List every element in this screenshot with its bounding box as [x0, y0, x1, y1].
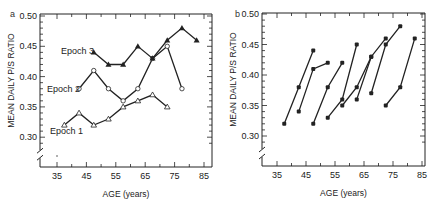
- open-triangle-marker-icon: [76, 110, 82, 115]
- series-label: Epoch 1: [50, 126, 83, 136]
- y-tick-label: 0.40: [241, 70, 259, 80]
- y-tick-label: 0.40: [19, 72, 37, 82]
- filled-circle-marker-icon: [326, 85, 330, 89]
- x-axis-title: AGE (years): [103, 189, 150, 199]
- open-circle-marker-icon: [106, 87, 110, 91]
- y-tick-label: 0.45: [241, 40, 259, 50]
- open-circle-marker-icon: [121, 99, 125, 103]
- x-tick-label: 85: [199, 171, 209, 181]
- series-cohort-1: [282, 49, 315, 126]
- y-tick-label: 0.50: [19, 11, 37, 21]
- chart-canvas: a0.300.350.400.450.50354555657585AGE (ye…: [0, 0, 436, 204]
- x-tick-label: 35: [272, 170, 282, 180]
- series-cohort-8: [384, 36, 417, 107]
- y-tick-label: 0.30: [241, 131, 259, 141]
- x-tick-label: 65: [140, 171, 150, 181]
- x-tick-label: 55: [111, 171, 121, 181]
- filled-circle-marker-icon: [384, 104, 388, 108]
- filled-circle-marker-icon: [297, 85, 301, 89]
- panel-b: b0.300.350.400.450.50354555657585AGE (ye…: [228, 9, 427, 198]
- x-tick-label: 45: [301, 170, 311, 180]
- x-tick-label: 45: [81, 171, 91, 181]
- filled-triangle-marker-icon: [135, 43, 141, 48]
- panel-letter: a: [10, 9, 15, 19]
- x-tick-label: 75: [170, 171, 180, 181]
- panel-a: a0.300.350.400.450.50354555657585AGE (ye…: [6, 9, 212, 199]
- y-axis-title: MEAN DAILY P/S RATIO: [228, 32, 238, 127]
- series-cohort-7: [369, 24, 402, 95]
- figure: a0.300.350.400.450.50354555657585AGE (ye…: [0, 0, 436, 204]
- open-circle-marker-icon: [165, 44, 169, 48]
- open-triangle-marker-icon: [150, 92, 156, 97]
- y-axis-title: MEAN DAILY P/S RATIO: [6, 33, 16, 128]
- filled-circle-marker-icon: [398, 85, 402, 89]
- y-tick-label: 0.30: [19, 132, 37, 142]
- open-circle-marker-icon: [136, 87, 140, 91]
- x-tick-label: 85: [417, 170, 427, 180]
- filled-circle-marker-icon: [340, 104, 344, 108]
- filled-triangle-marker-icon: [179, 25, 185, 30]
- x-tick-label: 65: [359, 170, 369, 180]
- x-tick-label: 35: [52, 171, 62, 181]
- filled-circle-marker-icon: [369, 55, 373, 59]
- filled-circle-marker-icon: [369, 91, 373, 95]
- filled-circle-marker-icon: [413, 36, 417, 40]
- x-tick-label: 75: [388, 170, 398, 180]
- series-epoch-3: [91, 25, 200, 67]
- filled-circle-marker-icon: [384, 36, 388, 40]
- x-tick-label: 55: [330, 170, 340, 180]
- filled-circle-marker-icon: [282, 122, 286, 126]
- series-label: Epoch 3: [61, 46, 94, 56]
- filled-circle-marker-icon: [355, 97, 359, 101]
- y-tick-label: 0.35: [241, 101, 259, 111]
- filled-circle-marker-icon: [311, 67, 315, 71]
- series-epoch-1: [62, 92, 171, 127]
- filled-circle-marker-icon: [384, 43, 388, 47]
- filled-circle-marker-icon: [340, 97, 344, 101]
- filled-circle-marker-icon: [311, 49, 315, 53]
- panel-letter: b: [235, 9, 240, 19]
- series-label: Epoch 2: [47, 84, 80, 94]
- y-tick-label: 0.50: [241, 9, 259, 19]
- filled-circle-marker-icon: [355, 43, 359, 47]
- filled-circle-marker-icon: [326, 61, 330, 65]
- open-circle-marker-icon: [92, 68, 96, 72]
- x-axis-title: AGE (years): [320, 188, 367, 198]
- filled-circle-marker-icon: [398, 24, 402, 28]
- y-tick-label: 0.45: [19, 41, 37, 51]
- series-cohort-2: [297, 61, 330, 114]
- filled-circle-marker-icon: [355, 85, 359, 89]
- filled-circle-marker-icon: [340, 61, 344, 65]
- y-tick-label: 0.35: [19, 102, 37, 112]
- filled-circle-marker-icon: [326, 116, 330, 120]
- filled-circle-marker-icon: [297, 110, 301, 114]
- open-circle-marker-icon: [180, 87, 184, 91]
- filled-circle-marker-icon: [311, 122, 315, 126]
